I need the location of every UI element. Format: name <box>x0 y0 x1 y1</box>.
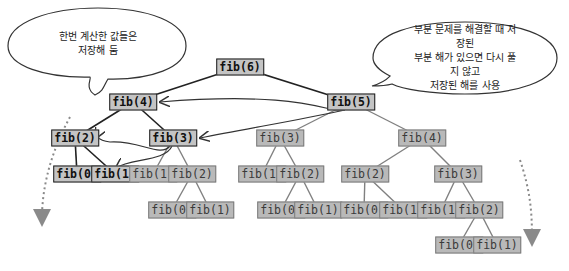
node-n3c: fib(3) <box>434 166 482 183</box>
bubble-left-text: 한번 계산한 값들은 저장해 둠 <box>59 30 137 58</box>
node-n2e: fib(2) <box>455 202 503 219</box>
node-n2a: fib(2) <box>51 130 99 147</box>
node-n2c: fib(2) <box>276 166 324 183</box>
node-n1c: fib(1) <box>186 202 234 219</box>
node-n4b: fib(4) <box>398 130 446 147</box>
node-n2b: fib(2) <box>168 166 216 183</box>
node-n5: fib(5) <box>327 94 375 111</box>
node-n4: fib(4) <box>109 94 157 111</box>
node-n1h: fib(1) <box>473 237 521 254</box>
bubble-right-text: 부분 문제를 해결할 때 저장된 부분 해가 있으면 다시 풀지 않고 저장된 … <box>413 23 517 93</box>
node-n3b: fib(3) <box>256 130 304 147</box>
node-n1e: fib(1) <box>294 202 342 219</box>
primary-edges <box>75 67 351 174</box>
node-n2d: fib(2) <box>341 166 389 183</box>
node-n6: fib(6) <box>216 59 264 76</box>
node-n3a: fib(3) <box>149 130 197 147</box>
